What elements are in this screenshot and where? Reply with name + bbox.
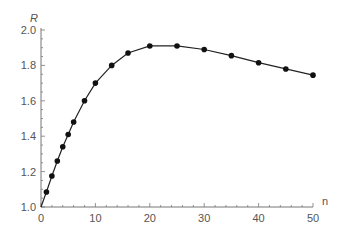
data-point [109,63,115,69]
axes: 010203040501.01.21.41.61.82.0Rn [21,12,328,224]
x-tick-label: 0 [38,212,44,224]
data-point [310,72,316,78]
y-tick-label: 1.0 [21,201,36,213]
x-axis-label: n [322,195,328,207]
y-tick-label: 1.8 [21,59,36,71]
x-tick-label: 50 [307,212,319,224]
y-tick-label: 2.0 [21,24,36,36]
y-axis-label: R [30,12,38,24]
x-tick-label: 20 [144,212,156,224]
x-tick-label: 40 [252,212,264,224]
data-point [283,66,289,72]
line-chart: 010203040501.01.21.41.61.82.0Rn [0,0,342,234]
plot-area [41,43,316,207]
series-line [41,46,313,207]
data-point [49,173,55,179]
data-point [55,158,61,164]
data-point [174,43,180,49]
y-tick-label: 1.6 [21,95,36,107]
data-point [147,43,153,49]
data-point [201,47,207,53]
data-point [93,80,99,86]
data-point [125,50,131,56]
y-tick-label: 1.4 [21,130,36,142]
data-point [256,60,262,66]
x-tick-label: 10 [89,212,101,224]
data-point [71,119,77,125]
data-point [82,98,88,104]
data-point [60,144,66,150]
y-tick-label: 1.2 [21,166,36,178]
x-tick-label: 30 [198,212,210,224]
data-point [44,189,50,195]
data-point [65,132,71,138]
data-point [229,53,235,59]
